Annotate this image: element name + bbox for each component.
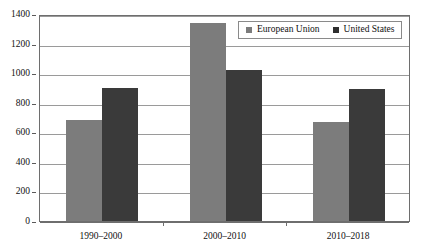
x-tick-label: 1990–2000 (79, 232, 122, 242)
chart-legend: European UnionUnited States (238, 21, 402, 39)
y-tick-label: 600 (16, 129, 30, 139)
bar-2010-2018-european-union (313, 122, 349, 221)
legend-label: European Union (257, 25, 320, 35)
y-tick-label: 200 (16, 188, 30, 198)
y-tick-mark (32, 45, 36, 46)
y-tick-label: 0 (25, 217, 30, 227)
y-tick-mark (32, 74, 36, 75)
y-tick-mark (32, 222, 36, 223)
legend-entry-united-states: United States (333, 25, 395, 35)
x-tick-mark (163, 221, 164, 226)
bar-2000-2010-european-union (190, 23, 226, 221)
legend-swatch-european-union-icon (246, 27, 252, 33)
legend-swatch-united-states-icon (333, 27, 339, 33)
y-tick-label: 1400 (11, 10, 30, 20)
x-tick-label: 2010–2018 (327, 232, 370, 242)
y-tick-mark (32, 163, 36, 164)
y-tick-label: 1000 (11, 69, 30, 79)
y-tick-mark (32, 192, 36, 193)
y-axis: 0200400600800100012001400 (0, 15, 36, 222)
y-tick-label: 400 (16, 158, 30, 168)
y-tick-label: 800 (16, 99, 30, 109)
x-axis: 1990–20002000–20102010–2018 (39, 226, 410, 246)
bar-chart: 0200400600800100012001400 1990–20002000–… (0, 0, 421, 251)
bar-1990-2000-european-union (66, 120, 102, 221)
bars-layer (40, 16, 409, 221)
legend-label: United States (344, 25, 395, 35)
y-tick-mark (32, 15, 36, 16)
bar-2010-2018-united-states (349, 89, 385, 221)
y-tick-mark (32, 104, 36, 105)
x-tick-mark (286, 221, 287, 226)
y-tick-mark (32, 133, 36, 134)
bar-2000-2010-united-states (226, 70, 262, 221)
gridline-0 (40, 222, 409, 223)
x-tick-label: 2000–2010 (203, 232, 246, 242)
bar-1990-2000-united-states (102, 88, 138, 221)
legend-entry-european-union: European Union (246, 25, 320, 35)
plot-area (39, 15, 410, 222)
y-tick-label: 1200 (11, 40, 30, 50)
